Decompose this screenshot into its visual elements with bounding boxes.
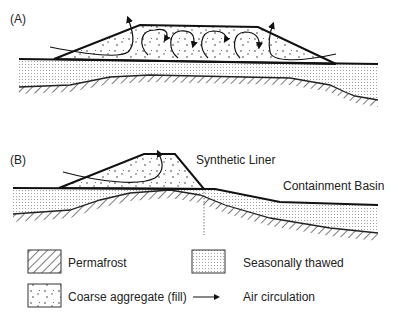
panel-a bbox=[19, 18, 378, 107]
legend-label-coarse-aggregate: Coarse aggregate (fill) bbox=[68, 290, 187, 304]
legend-label-permafrost: Permafrost bbox=[68, 256, 127, 270]
hatch-pattern-icon bbox=[28, 250, 61, 273]
embankment-a bbox=[54, 25, 336, 64]
synthetic-liner-label: Synthetic Liner bbox=[196, 153, 275, 167]
containment-basin-label: Containment Basin bbox=[283, 179, 384, 193]
dot-stipple-icon bbox=[192, 250, 225, 273]
speckle-fill-icon bbox=[28, 284, 61, 307]
panel-a-label: (A) bbox=[10, 12, 26, 26]
berm-b bbox=[59, 154, 204, 189]
legend-label-seasonally-thawed: Seasonally thawed bbox=[243, 256, 344, 270]
panel-b-label: (B) bbox=[10, 153, 26, 167]
legend-label-air-circulation: Air circulation bbox=[243, 290, 315, 304]
